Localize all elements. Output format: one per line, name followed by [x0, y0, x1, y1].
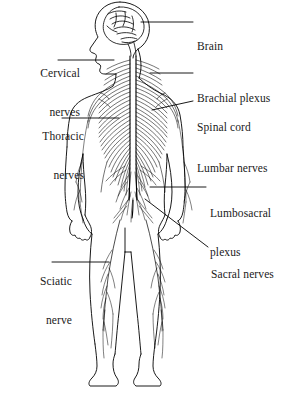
label-spinal-cord-line-1: Spinal cord	[197, 121, 251, 134]
thoracic-nerve-rays	[99, 88, 167, 158]
label-sacral-nerves-line-1: Sacral nerves	[211, 268, 274, 281]
label-lumbar-nerves-line-1: Lumbar nerves	[197, 162, 268, 175]
leader-sacral-nerves	[145, 199, 208, 247]
cervical-nerve-roots	[104, 60, 162, 85]
nervous-system-figure: Brain Cervical nerves Brachial plexus Sp…	[0, 0, 285, 396]
label-cervical-nerves-line-1: Cervical	[8, 67, 80, 80]
label-sciatic-nerve-line-1: Sciatic	[8, 275, 72, 288]
label-thoracic-nerves-line-1: Thoracic	[8, 130, 84, 143]
label-brain-line-1: Brain	[197, 40, 223, 53]
label-thoracic-nerves-line-2: nerves	[8, 169, 84, 182]
label-sciatic-nerve: Sciatic nerve	[8, 249, 72, 353]
spinal-cord-column	[129, 56, 137, 218]
label-sacral-nerves: Sacral nerves	[211, 242, 274, 307]
label-thoracic-nerves: Thoracic nerves	[8, 104, 84, 208]
label-sciatic-nerve-line-2: nerve	[8, 314, 72, 327]
label-lumbosacral-plexus-line-1: Lumbosacral	[210, 207, 271, 220]
